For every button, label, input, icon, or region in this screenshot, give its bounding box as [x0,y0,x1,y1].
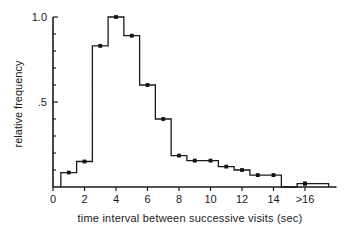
data-point-marker [130,34,134,38]
data-point-marker [193,159,197,163]
data-point-marker [146,83,150,87]
data-point-marker [161,117,165,121]
data-point-marker [83,160,87,164]
axis-lines [53,17,337,191]
x-axis-title: time interval between successive visits … [78,212,303,224]
data-point-marker [114,15,118,19]
histogram-plot: 1.0.5 02468101214>16 relative frequency … [0,0,350,232]
x-tick-label: 4 [113,193,119,205]
data-point-marker [67,171,71,175]
x-tick-label: 2 [81,193,87,205]
x-tick-label: 14 [267,193,279,205]
y-axis-tick-labels: 1.0.5 [32,11,47,108]
data-point-marker [303,182,307,186]
y-tick-label: .5 [38,96,47,108]
x-tick-label: 8 [176,193,182,205]
data-point-marker [272,173,276,177]
y-tick-label: 1.0 [32,11,47,23]
x-tick-label: >16 [296,193,315,205]
data-point-marker [177,154,181,158]
x-axis-tick-labels: 02468101214>16 [50,193,314,205]
y-axis-title: relative frequency [12,60,24,147]
data-point-marker [240,168,244,172]
data-point-marker [256,173,260,177]
data-point-marker [209,159,213,163]
x-tick-label: 10 [204,193,216,205]
x-tick-label: 12 [236,193,248,205]
data-point-marker [98,44,102,48]
histogram-figure: 1.0.5 02468101214>16 relative frequency … [0,0,350,232]
data-point-marker [224,165,228,169]
x-tick-label: 0 [50,193,56,205]
x-tick-label: 6 [144,193,150,205]
